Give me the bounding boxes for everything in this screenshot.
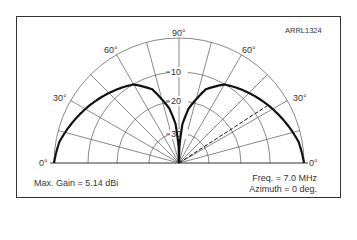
max-gain-label: Max. Gain = 5.14 dBi [34,179,118,188]
freq-label: Freq. = 7.0 MHz [252,174,317,183]
svg-text:20: 20 [171,96,181,106]
angle-label-30-right: 30° [293,94,307,103]
radial-grid-line [71,101,179,164]
angle-label-60-right: 60° [242,46,256,55]
azimuth-label: Azimuth = 0 deg. [249,185,317,194]
angle-label-0-right: 0° [309,159,318,168]
radial-grid-line [179,131,300,163]
radial-grid-line [58,131,179,163]
angle-label-90: 90° [172,29,186,38]
angle-label-0-left: 0° [39,159,48,168]
angle-label-60-left: 60° [104,46,118,55]
radial-grid-line [179,75,267,163]
figure-id: ARRL1324 [285,27,322,35]
angle-label-30-left: 30° [53,94,67,103]
svg-text:10: 10 [171,67,181,77]
radial-grid-line [179,101,287,164]
radial-grid-line [91,75,179,163]
